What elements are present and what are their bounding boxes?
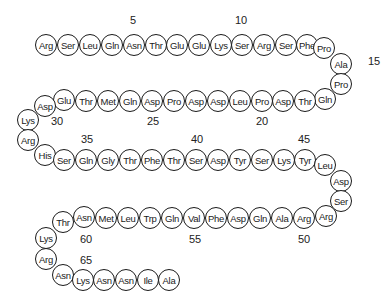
residue-69: Ala (158, 269, 180, 291)
residue-38: Phe (141, 149, 163, 171)
residue-51: Ala (271, 207, 293, 229)
residue-55: Val (183, 207, 205, 229)
position-label-15: 15 (368, 55, 380, 67)
residue-1: Arg (35, 34, 57, 56)
residue-66: Asn (93, 269, 115, 291)
residue-42: Tyr (229, 149, 251, 171)
position-label-45: 45 (298, 133, 310, 145)
residue-40: Ser (185, 149, 207, 171)
residue-3: Leu (79, 34, 101, 56)
residue-60: Asn (73, 206, 95, 228)
residue-53: Asp (227, 207, 249, 229)
residue-28: Thr (75, 90, 97, 112)
position-label-30: 30 (51, 115, 63, 127)
residue-10: Ser (231, 34, 253, 56)
position-label-50: 50 (298, 233, 310, 245)
residue-17: Gln (314, 88, 336, 110)
residue-39: Thr (163, 149, 185, 171)
position-label-55: 55 (189, 233, 201, 245)
residue-36: Gly (97, 149, 119, 171)
position-label-35: 35 (81, 133, 93, 145)
residue-67: Asn (115, 269, 137, 291)
residue-4: Gln (101, 34, 123, 56)
residue-54: Phe (205, 207, 227, 229)
residue-47: Asp (330, 170, 352, 192)
residue-35: Gln (75, 149, 97, 171)
residue-24: Pro (163, 90, 185, 112)
residue-12: Ser (275, 34, 297, 56)
position-label-25: 25 (147, 115, 159, 127)
residue-45: Tyr (294, 149, 316, 171)
peptide-sequence-diagram: ArgSerLeuGlnAsnThrGluGluLysSerArgSerPheP… (0, 0, 392, 304)
residue-49: Arg (315, 205, 337, 227)
residue-56: Gln (161, 207, 183, 229)
residue-27: Met (97, 90, 119, 112)
residue-19: Asp (272, 90, 294, 112)
residue-64: Asn (52, 264, 74, 286)
residue-37: Thr (119, 149, 141, 171)
residue-9: Lys (210, 34, 232, 56)
residue-11: Arg (253, 34, 275, 56)
residue-34: Ser (53, 149, 75, 171)
residue-31: Lys (17, 109, 39, 131)
position-label-20: 20 (256, 115, 268, 127)
residue-50: Arg (293, 207, 315, 229)
residue-18: Thr (294, 90, 316, 112)
residue-26: Gln (119, 90, 141, 112)
residue-52: Gln (249, 207, 271, 229)
residue-20: Pro (251, 90, 273, 112)
residue-62: Lys (35, 227, 57, 249)
residue-41: Asp (207, 149, 229, 171)
residue-21: Leu (229, 90, 251, 112)
residue-2: Ser (57, 34, 79, 56)
residue-43: Ser (251, 149, 273, 171)
residue-7: Glu (166, 34, 188, 56)
residue-15: Ala (330, 53, 352, 75)
residue-68: Ile (137, 269, 159, 291)
residue-58: Leu (117, 207, 139, 229)
residue-59: Met (95, 207, 117, 229)
residue-14: Pro (313, 37, 335, 59)
position-label-5: 5 (130, 14, 136, 26)
residue-5: Asn (123, 34, 145, 56)
residue-61: Thr (52, 211, 74, 233)
residue-8: Glu (188, 34, 210, 56)
residue-6: Thr (145, 34, 167, 56)
residue-57: Trp (139, 207, 161, 229)
residue-25: Asp (141, 90, 163, 112)
position-label-10: 10 (235, 14, 247, 26)
position-label-60: 60 (80, 233, 92, 245)
residue-65: Lys (72, 269, 94, 291)
residue-22: Asp (207, 90, 229, 112)
position-label-40: 40 (191, 133, 203, 145)
residue-23: Asp (185, 90, 207, 112)
residue-29: Glu (53, 89, 75, 111)
residue-63: Arg (35, 248, 57, 270)
residue-44: Lys (273, 149, 295, 171)
position-label-65: 65 (80, 254, 92, 266)
